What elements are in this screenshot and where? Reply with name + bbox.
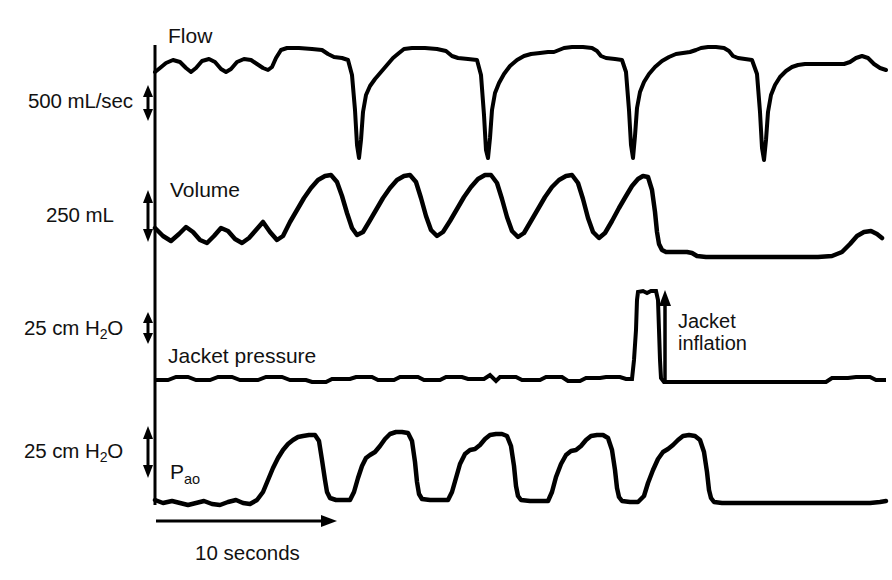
pao-calibration-label-subscript: 2 bbox=[100, 449, 108, 465]
volume-trace bbox=[155, 175, 882, 257]
jacket-inflation-annotation-line1: Jacket bbox=[678, 310, 747, 332]
respiratory-waveform-figure: 500 mL/sec 250 mL 25 cm H2O 25 cm H2O Fl… bbox=[0, 0, 892, 580]
flow-trace-label: Flow bbox=[168, 24, 212, 47]
pao-calibration-label: 25 cm H2O bbox=[24, 440, 123, 463]
pao-trace bbox=[155, 432, 886, 505]
pao-trace-label-main: P bbox=[170, 460, 184, 483]
flow-trace bbox=[155, 47, 886, 160]
jacket-calibration-label-main: 25 cm H bbox=[24, 316, 100, 339]
pao-calibration-arrow bbox=[143, 426, 153, 478]
volume-calibration-label: 250 mL bbox=[46, 204, 114, 227]
time-scale-bar bbox=[156, 515, 337, 527]
jacket-calibration-label-tail: O bbox=[107, 316, 123, 339]
time-axis-label: 10 seconds bbox=[195, 542, 300, 565]
jacket-pressure-trace-label: Jacket pressure bbox=[168, 344, 316, 367]
waveform-canvas bbox=[0, 0, 892, 580]
flow-calibration-label: 500 mL/sec bbox=[28, 90, 133, 113]
jacket-calibration-label: 25 cm H2O bbox=[24, 317, 123, 340]
pao-calibration-label-tail: O bbox=[107, 439, 123, 462]
jacket-calibration-arrow bbox=[143, 312, 153, 344]
flow-calibration-arrow bbox=[143, 85, 153, 121]
jacket-inflation-annotation: Jacket inflation bbox=[678, 310, 747, 354]
pao-trace-label-subscript: ao bbox=[184, 471, 200, 487]
volume-trace-label: Volume bbox=[170, 178, 240, 201]
jacket-inflation-annotation-line2: inflation bbox=[678, 332, 747, 354]
jacket-calibration-label-subscript: 2 bbox=[100, 326, 108, 342]
volume-calibration-arrow bbox=[143, 190, 153, 242]
jacket-pressure-trace bbox=[155, 291, 886, 382]
pao-calibration-label-main: 25 cm H bbox=[24, 439, 100, 462]
pao-trace-label: Pao bbox=[170, 460, 200, 483]
